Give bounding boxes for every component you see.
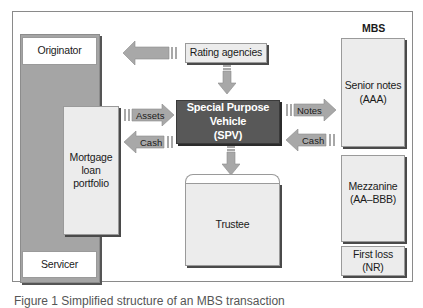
servicer-box: Servicer xyxy=(22,251,97,278)
senior-line-1: Senior notes xyxy=(345,79,402,92)
cash-right-label: Cash xyxy=(302,135,324,146)
mbs-title: MBS xyxy=(362,22,385,34)
servicer-label: Servicer xyxy=(41,258,78,271)
mortgage-line-3: portfolio xyxy=(73,177,109,190)
arrow-cash-to-spv: Cash xyxy=(286,129,336,151)
senior-notes-box: Senior notes (AAA) xyxy=(341,38,405,147)
first-loss-box: First loss (NR) xyxy=(341,246,405,276)
trustee-label: Trustee xyxy=(216,218,250,231)
arrow-rating-to-spv xyxy=(218,65,236,95)
originator-label: Originator xyxy=(37,44,81,57)
mortgage-line-2: loan xyxy=(81,164,100,177)
arrow-rating-to-originator xyxy=(123,41,179,65)
rating-agencies-label: Rating agencies xyxy=(190,46,262,59)
first-loss-line-2: (NR) xyxy=(362,261,383,274)
spv-line-1: Special Purpose Vehicle xyxy=(177,101,279,129)
notes-label: Notes xyxy=(297,105,322,116)
arrow-cash-to-portfolio: Cash xyxy=(124,131,174,153)
figure-caption: Figure 1 Simplified structure of an MBS … xyxy=(14,294,285,308)
originator-box: Originator xyxy=(22,37,97,65)
senior-line-2: (AAA) xyxy=(359,93,386,106)
mezzanine-box: Mezzanine (AA–BBB) xyxy=(341,155,405,242)
rating-agencies-box: Rating agencies xyxy=(185,43,267,63)
trustee-box: Trustee xyxy=(185,183,280,266)
arrow-notes: Notes xyxy=(286,99,336,121)
spv-box: Special Purpose Vehicle (SPV) xyxy=(176,100,280,144)
assets-label: Assets xyxy=(136,110,165,121)
spv-line-2: (SPV) xyxy=(214,129,242,143)
arrow-spv-to-trustee xyxy=(222,146,240,176)
mortgage-line-1: Mortgage xyxy=(70,151,113,164)
cash-left-label: Cash xyxy=(140,137,162,148)
first-loss-line-1: First loss xyxy=(353,248,393,261)
arrow-assets: Assets xyxy=(124,104,174,126)
mortgage-portfolio-box: Mortgage loan portfolio xyxy=(63,106,119,235)
mezzanine-line-1: Mezzanine xyxy=(349,180,398,193)
mezzanine-line-2: (AA–BBB) xyxy=(350,193,396,206)
